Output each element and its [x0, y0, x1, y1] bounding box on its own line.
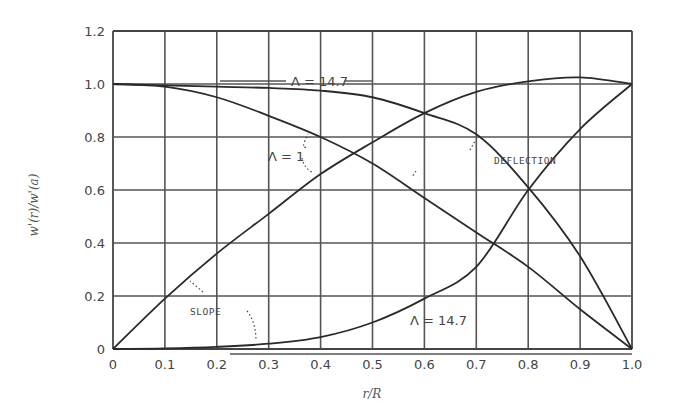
- annotation-slope: SLOPE: [190, 306, 221, 317]
- annotation-lambda-14-7-top: Λ = 14.7: [291, 74, 348, 89]
- leader-deflection-right: [470, 141, 475, 150]
- y-tick-label: 1.0: [84, 77, 105, 92]
- x-tick-label: 0.3: [258, 357, 279, 372]
- annotation-lambda-14-7-bottom: Λ = 14.7: [410, 313, 467, 328]
- x-tick-label: 1.0: [622, 357, 643, 372]
- y-axis-label: w'(r)/w'(a): [27, 173, 41, 236]
- y-tick-label: 0.4: [84, 236, 105, 251]
- leader-slope-lambda-14-7: [247, 311, 256, 341]
- x-tick-label: 0.8: [518, 357, 539, 372]
- y-tick-label: 1.2: [84, 24, 105, 39]
- leader-lambda-1-deflection: [303, 134, 308, 147]
- annotation-deflection: DEFLECTION: [494, 155, 556, 166]
- x-tick-label: 0.6: [414, 357, 435, 372]
- y-axis-ticks: 00.20.40.60.81.01.2: [84, 24, 105, 357]
- x-tick-label: 0.1: [155, 357, 176, 372]
- leader-slope-lambda-1: [190, 281, 203, 292]
- y-tick-label: 0: [97, 342, 105, 357]
- x-tick-label: 0.7: [466, 357, 487, 372]
- x-tick-label: 0.2: [206, 357, 227, 372]
- y-tick-label: 0.6: [84, 183, 105, 198]
- y-tick-label: 0.8: [84, 130, 105, 145]
- x-tick-label: 0: [109, 357, 117, 372]
- leader-deflection-left: [412, 171, 416, 177]
- y-tick-label: 0.2: [84, 289, 105, 304]
- chart: 00.20.40.60.81.01.2 00.10.20.30.40.50.60…: [0, 0, 676, 419]
- x-tick-label: 0.9: [570, 357, 591, 372]
- x-tick-label: 0.4: [310, 357, 331, 372]
- annotation-lambda-1: Λ = 1: [268, 149, 304, 164]
- x-axis-ticks: 00.10.20.30.40.50.60.70.80.91.0: [109, 357, 642, 372]
- x-axis-label: r/R: [363, 387, 382, 401]
- x-tick-label: 0.5: [362, 357, 383, 372]
